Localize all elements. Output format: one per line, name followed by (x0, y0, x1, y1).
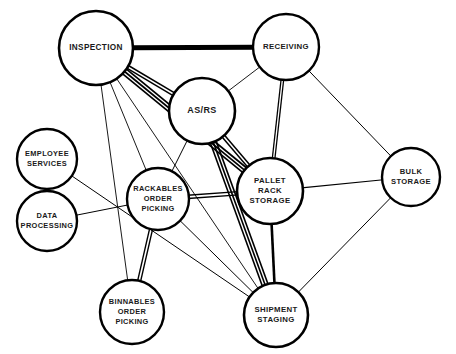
edge-pallet_rack_storage-bulk_storage (302, 180, 384, 188)
node-circle-binnables_order_picking[interactable] (100, 280, 164, 344)
node-circle-shipment_staging[interactable] (244, 283, 308, 347)
node-circle-asrs[interactable] (169, 78, 235, 144)
edge-segment (302, 180, 384, 188)
edge-inspection-rackables_order_picking (110, 81, 147, 171)
edge-layer (71, 47, 392, 297)
edge-segment (308, 70, 392, 157)
node-binnables_order_picking[interactable]: BINNABLESORDERPICKING (100, 280, 164, 344)
node-rackables_order_picking[interactable]: RACKABLESORDERPICKING (127, 168, 189, 230)
node-employee_services[interactable]: EMPLOYEESERVICES (17, 129, 77, 189)
node-circle-bulk_storage[interactable] (382, 148, 440, 206)
edge-receiving-bulk_storage (308, 70, 392, 157)
node-asrs[interactable]: AS/RS (169, 78, 235, 144)
node-circle-employee_services[interactable] (17, 129, 77, 189)
edge-segment (298, 197, 392, 293)
edge-data_processing-rackables_order_picking (75, 205, 129, 216)
node-data_processing[interactable]: DATAPROCESSING (17, 191, 77, 251)
edge-segment (272, 223, 275, 284)
node-circle-inspection[interactable] (59, 11, 133, 85)
edge-asrs-rackables_order_picking (171, 139, 187, 172)
node-inspection[interactable]: INSPECTION (59, 11, 133, 85)
node-layer: INSPECTIONRECEIVINGAS/RSEMPLOYEESERVICES… (17, 11, 440, 347)
edge-segment (101, 83, 128, 281)
node-circle-receiving[interactable] (253, 14, 319, 80)
node-pallet_rack_storage[interactable]: PALLETRACKSTORAGE (237, 158, 303, 224)
edge-bulk_storage-shipment_staging (298, 197, 392, 293)
edge-segment (75, 205, 129, 216)
edge-segment (227, 66, 260, 91)
network-diagram: INSPECTIONRECEIVINGAS/RSEMPLOYEESERVICES… (0, 0, 456, 354)
node-bulk_storage[interactable]: BULKSTORAGE (382, 148, 440, 206)
edge-segment (110, 81, 147, 171)
edge-segment (137, 228, 149, 282)
edge-inspection-receiving (132, 47, 254, 48)
edge-rackables_order_picking-binnables_order_picking (137, 228, 152, 283)
edge-inspection-asrs (126, 65, 175, 96)
edge-segment (140, 228, 152, 282)
network-diagram-canvas: INSPECTIONRECEIVINGAS/RSEMPLOYEESERVICES… (0, 0, 456, 354)
edge-segment (171, 139, 187, 172)
edge-receiving-pallet_rack_storage (272, 78, 284, 159)
edge-inspection-binnables_order_picking (101, 83, 128, 281)
node-circle-rackables_order_picking[interactable] (127, 168, 189, 230)
node-receiving[interactable]: RECEIVING (253, 14, 319, 80)
node-circle-pallet_rack_storage[interactable] (237, 158, 303, 224)
node-circle-data_processing[interactable] (17, 191, 77, 251)
edge-pallet_rack_storage-shipment_staging (272, 223, 275, 284)
node-shipment_staging[interactable]: SHIPMENTSTAGING (244, 283, 308, 347)
edge-receiving-asrs (227, 66, 260, 91)
edge-segment (132, 47, 254, 48)
